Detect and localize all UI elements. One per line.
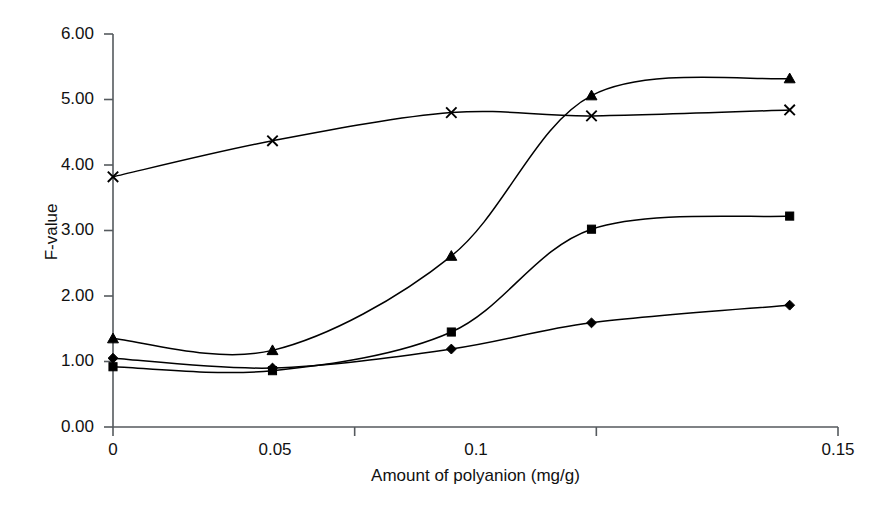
series-square-marker bbox=[109, 363, 117, 371]
axis-spine bbox=[113, 34, 838, 427]
x-tick-2: 0.1 bbox=[436, 440, 516, 460]
y-tick-0: 0.00 bbox=[24, 417, 94, 437]
y-axis-title: F-value bbox=[42, 172, 62, 292]
series-diamond-line bbox=[113, 305, 790, 368]
series-square-marker bbox=[786, 212, 794, 220]
series-diamond-marker bbox=[446, 344, 456, 354]
y-tick-1: 1.00 bbox=[24, 351, 94, 371]
axes bbox=[104, 34, 838, 436]
x-tick-0: 0 bbox=[73, 440, 153, 460]
x-tick-3: 0.15 bbox=[798, 440, 878, 460]
series-square-marker bbox=[587, 225, 595, 233]
series-diamond-marker bbox=[785, 300, 795, 310]
y-tick-5: 5.00 bbox=[24, 89, 94, 109]
series-diamond bbox=[108, 300, 795, 373]
series-triangle-marker bbox=[108, 333, 119, 343]
x-tick-1: 0.05 bbox=[235, 440, 315, 460]
data-series-group bbox=[108, 73, 796, 375]
series-triangle-marker bbox=[586, 90, 597, 100]
series-cross-line bbox=[113, 110, 790, 177]
series-square-marker bbox=[447, 328, 455, 336]
series-triangle-marker bbox=[784, 73, 795, 83]
series-diamond-marker bbox=[587, 318, 597, 328]
series-cross bbox=[108, 105, 795, 182]
chart-figure: 6.00 5.00 4.00 3.00 2.00 1.00 0.00 0 0.0… bbox=[0, 0, 880, 522]
x-axis-title: Amount of polyanion (mg/g) bbox=[113, 466, 838, 486]
y-tick-6: 6.00 bbox=[24, 24, 94, 44]
